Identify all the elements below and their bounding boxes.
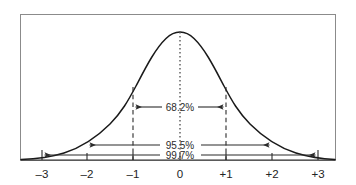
sigma-3-label: 99.7% [166, 150, 194, 161]
normal-distribution-figure: 68.2% 95.5% 99.7% –3 –2 –1 0 +1 +2 +3 [0, 0, 356, 185]
x-tick-label-minus-1: –1 [127, 168, 140, 180]
x-tick-label-minus-3: –3 [36, 168, 49, 180]
x-tick-label-plus-1: +1 [219, 168, 232, 180]
x-tick-label-minus-2: –2 [81, 168, 94, 180]
x-tick-label-plus-2: +2 [265, 168, 278, 180]
sigma-1-label: 68.2% [166, 102, 194, 113]
x-tick-label-plus-3: +3 [311, 168, 324, 180]
x-axis-tick-labels: –3 –2 –1 0 +1 +2 +3 [36, 168, 325, 180]
x-tick-label-zero: 0 [177, 168, 183, 180]
